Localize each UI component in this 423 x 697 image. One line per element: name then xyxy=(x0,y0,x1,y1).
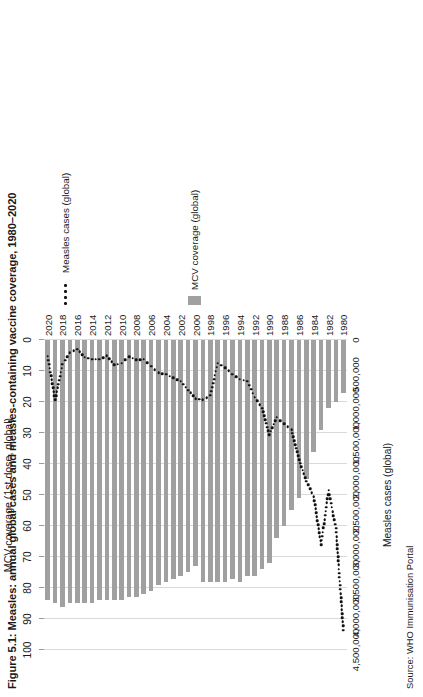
bar xyxy=(341,340,346,393)
data-point-dot xyxy=(182,383,185,386)
data-point-dot xyxy=(209,394,212,397)
data-point-dot xyxy=(52,391,55,394)
bar xyxy=(112,340,117,600)
data-point-dot xyxy=(250,388,253,391)
bar xyxy=(319,340,324,430)
bar xyxy=(208,340,213,582)
source-note: Source: WHO Immunisation Portal xyxy=(404,546,415,689)
dotted-line-icon xyxy=(61,279,70,305)
data-point-dot xyxy=(337,560,340,563)
data-point-dot xyxy=(59,375,62,378)
data-point-dot xyxy=(194,397,197,400)
year-tick-label: 2016 xyxy=(72,315,83,336)
data-point-dot xyxy=(139,358,142,361)
bar xyxy=(141,340,146,594)
bar xyxy=(97,340,102,600)
data-point-dot xyxy=(318,531,321,534)
legend-label-measles-cases: Measles cases (global) xyxy=(60,173,71,273)
data-point-dot xyxy=(319,539,322,542)
data-point-dot xyxy=(52,387,55,390)
data-point-dot xyxy=(176,378,179,381)
data-point-dot xyxy=(305,480,308,483)
data-point-dot xyxy=(324,510,327,513)
bar xyxy=(326,340,331,408)
data-point-dot xyxy=(54,399,57,402)
bar xyxy=(223,340,228,582)
coverage-tick-label: 100 xyxy=(22,642,33,659)
coverage-axis-title: MCV coverage (1st dose, global) xyxy=(2,340,14,650)
legend-label-mcv-coverage: MCV coverage (global) xyxy=(189,190,200,290)
data-point-dot xyxy=(342,629,345,632)
data-point-dot xyxy=(87,357,90,360)
data-point-dot xyxy=(150,365,153,368)
data-point-dot xyxy=(81,353,84,356)
data-point-dot xyxy=(172,377,175,380)
data-point-dot xyxy=(261,407,264,410)
year-tick-label: 2010 xyxy=(116,315,127,336)
data-point-dot xyxy=(335,531,338,534)
data-point-dot xyxy=(341,621,344,624)
data-point-dot xyxy=(58,379,61,382)
coverage-tick-label: 20 xyxy=(22,396,33,407)
data-point-dot xyxy=(184,386,187,389)
year-tick-label: 1984 xyxy=(308,315,319,336)
data-point-dot xyxy=(324,514,327,517)
bar xyxy=(149,340,154,591)
data-point-dot xyxy=(317,523,320,526)
data-point-dot xyxy=(340,604,343,607)
year-tick-label: 1982 xyxy=(323,315,334,336)
data-point-dot xyxy=(161,372,164,375)
figure-canvas: Figure 5.1: Measles: annual global cases… xyxy=(0,0,423,697)
data-point-dot xyxy=(300,465,303,468)
data-point-dot xyxy=(296,451,299,454)
bar xyxy=(60,340,65,607)
data-point-dot xyxy=(283,423,286,426)
data-point-dot xyxy=(319,535,322,538)
year-tick-label: 1990 xyxy=(264,315,275,336)
data-point-dot xyxy=(246,380,249,383)
data-point-dot xyxy=(117,363,120,366)
cases-tick-label: 0 xyxy=(350,337,361,342)
coverage-tick-label: 80 xyxy=(22,582,33,593)
bar xyxy=(311,340,316,452)
bar xyxy=(156,340,161,585)
bar xyxy=(193,340,198,566)
data-point-dot xyxy=(64,359,67,362)
plot-area xyxy=(44,340,347,650)
data-point-dot xyxy=(340,596,343,599)
data-point-dot xyxy=(336,543,339,546)
bar xyxy=(134,340,139,597)
data-point-dot xyxy=(57,383,60,386)
data-point-dot xyxy=(198,398,201,401)
bar xyxy=(274,340,279,538)
data-point-dot xyxy=(294,443,297,446)
data-point-dot xyxy=(273,423,276,426)
year-tick-label: 1994 xyxy=(234,315,245,336)
data-point-dot xyxy=(78,351,81,354)
data-point-dot xyxy=(322,531,325,534)
data-point-dot xyxy=(337,564,340,567)
data-point-dot xyxy=(98,358,101,361)
gridline xyxy=(44,618,347,619)
data-point-dot xyxy=(299,462,302,465)
data-point-dot xyxy=(53,395,56,398)
data-point-dot xyxy=(128,355,131,358)
data-point-dot xyxy=(213,378,216,381)
year-tick-label: 2012 xyxy=(101,315,112,336)
data-point-dot xyxy=(326,502,329,505)
bar xyxy=(90,340,95,604)
data-point-dot xyxy=(335,527,338,530)
data-point-dot xyxy=(46,355,49,358)
year-tick-label: 1996 xyxy=(220,315,231,336)
coverage-tick-label: 40 xyxy=(22,458,33,469)
bar xyxy=(186,340,191,573)
data-point-dot xyxy=(312,495,315,498)
data-point-dot xyxy=(216,362,219,365)
data-point-dot xyxy=(313,499,316,502)
data-point-dot xyxy=(266,426,269,429)
data-point-dot xyxy=(332,514,335,517)
data-point-dot xyxy=(341,613,344,616)
year-tick-label: 1980 xyxy=(338,315,349,336)
data-point-dot xyxy=(316,515,319,518)
coverage-tick-label: 50 xyxy=(22,489,33,500)
